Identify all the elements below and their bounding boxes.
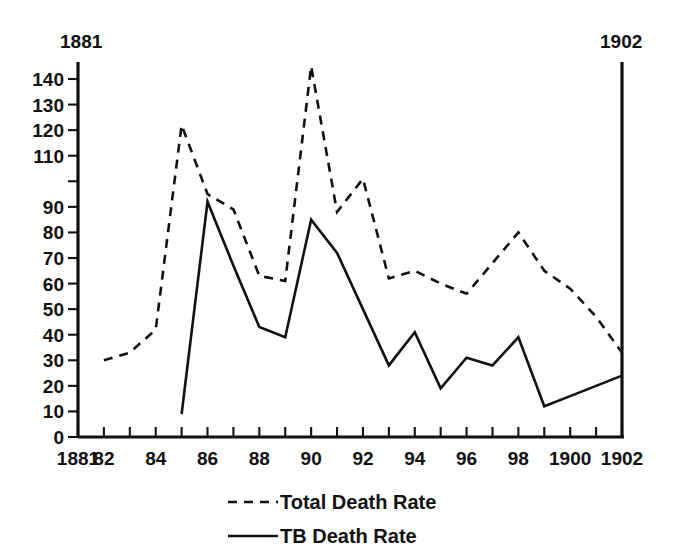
x-tick-label: 94 (404, 448, 426, 469)
x-tick-label: 1900 (549, 448, 591, 469)
x-axis-ticks: 188182848688909294969819001902 (57, 427, 643, 469)
y-tick-label: 80 (43, 222, 64, 243)
legend-label[interactable]: Total Death Rate (280, 491, 436, 513)
y-tick-label: 60 (43, 274, 64, 295)
axes (78, 62, 624, 438)
legend-label[interactable]: TB Death Rate (280, 525, 417, 547)
x-tick-label: 92 (352, 448, 373, 469)
x-tick-label: 96 (456, 448, 477, 469)
y-tick-label: 120 (32, 120, 64, 141)
y-tick-label: 130 (32, 95, 64, 116)
y-tick-label: 20 (43, 376, 64, 397)
series-line-solid (182, 202, 622, 414)
y-tick-label: 50 (43, 299, 64, 320)
x-tick-label: 90 (301, 448, 322, 469)
x-tick-label: 98 (508, 448, 529, 469)
y-tick-label: 0 (53, 427, 64, 448)
x-tick-label: 1902 (601, 448, 643, 469)
series-lines (104, 66, 622, 414)
right-corner-year-label: 1902 (600, 31, 642, 52)
line-chart: 1881 1902 140130120110908070605040302010… (0, 0, 689, 556)
x-tick-label: 86 (197, 448, 218, 469)
y-tick-label: 110 (33, 146, 64, 167)
series-line-dashed (104, 66, 622, 360)
chart-container: 1881 1902 140130120110908070605040302010… (0, 0, 689, 556)
x-tick-label: 84 (145, 448, 167, 469)
y-axis-ticks: 1401301201109080706050403020100 (32, 69, 78, 448)
y-tick-label: 30 (43, 350, 64, 371)
y-tick-label: 10 (43, 401, 64, 422)
chart-legend: Total Death RateTB Death Rate (228, 491, 436, 547)
y-tick-label: 140 (32, 69, 64, 90)
x-tick-label: 82 (93, 448, 114, 469)
y-tick-label: 70 (43, 248, 64, 269)
x-tick-label: 88 (249, 448, 270, 469)
left-corner-year-label: 1881 (60, 31, 103, 52)
y-tick-label: 90 (43, 197, 64, 218)
y-tick-label: 40 (43, 325, 64, 346)
